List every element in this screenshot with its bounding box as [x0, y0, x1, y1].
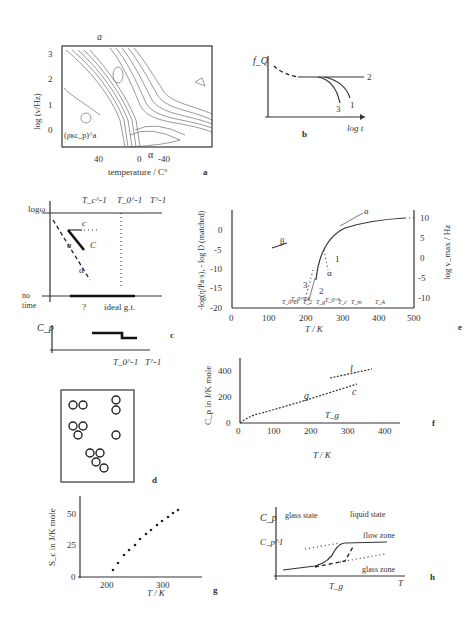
svg-text:β: β — [280, 236, 285, 246]
panel-f-glass — [240, 384, 357, 423]
svg-text:200: 200 — [218, 392, 232, 402]
svg-text:T / K: T / K — [313, 450, 332, 460]
svg-text:100: 100 — [262, 313, 276, 323]
svg-text:a: a — [364, 206, 369, 216]
svg-text:0: 0 — [71, 572, 76, 582]
svg-text:T_g: T_g — [316, 299, 325, 305]
svg-text:-5: -5 — [418, 273, 426, 283]
panel-f: C_p in J/K mole 400 200 0 0 100 200 300 … — [203, 358, 436, 460]
svg-text:100: 100 — [267, 426, 281, 436]
svg-text:glass zone: glass zone — [362, 565, 396, 574]
svg-text:l: l — [350, 363, 353, 374]
svg-text:h: h — [430, 572, 435, 582]
svg-text:d: d — [152, 475, 157, 485]
svg-text:0: 0 — [218, 225, 223, 235]
svg-text:T_c: T_c — [338, 299, 347, 305]
panel-b-letter: b — [302, 129, 307, 139]
svg-text:-10: -10 — [418, 293, 430, 303]
svg-text:T_m: T_m — [351, 299, 362, 305]
svg-text:g: g — [213, 585, 218, 595]
svg-text:3: 3 — [336, 104, 341, 114]
svg-text:a: a — [67, 240, 72, 250]
svg-text:α: α — [79, 265, 84, 275]
panel-h: C_p C_p^1 glass state liquid state flow … — [260, 507, 435, 591]
svg-text:T^-1: T^-1 — [150, 195, 166, 205]
svg-text:T_c^-1: T_c^-1 — [82, 195, 107, 205]
svg-text:T_0^-1: T_0^-1 — [113, 357, 138, 367]
svg-text:T_0^-1: T_0^-1 — [117, 195, 142, 205]
svg-text:ideal g.t.: ideal g.t. — [104, 302, 135, 312]
figure-canvas: a 3 2 1 0 log (ν/Hz) 40 0 -40 α temperat… — [0, 0, 467, 625]
svg-text:α: α — [327, 268, 332, 278]
panel-b-xlabel: log t — [347, 123, 364, 133]
svg-text:-5: -5 — [214, 245, 222, 255]
svg-text:c: c — [352, 386, 357, 397]
svg-text:400: 400 — [378, 426, 392, 436]
svg-text:C_p: C_p — [260, 512, 277, 523]
svg-text:500: 500 — [407, 313, 421, 323]
svg-text:2: 2 — [367, 72, 372, 82]
panel-a-yticks: 3 2 1 0 — [48, 49, 53, 135]
panel-a: a 3 2 1 0 log (ν/Hz) 40 0 -40 α temperat… — [32, 31, 212, 177]
svg-text:C: C — [90, 240, 97, 250]
svg-text:5: 5 — [420, 233, 425, 243]
svg-text:logω: logω — [28, 204, 46, 214]
svg-text:glass state: glass state — [285, 511, 318, 520]
svg-text:no: no — [22, 291, 30, 300]
svg-text:T_g: T_g — [329, 581, 344, 591]
svg-text:log ν_max / Hz: log ν_max / Hz — [442, 225, 452, 280]
svg-text:0: 0 — [48, 125, 53, 135]
svg-text:300: 300 — [341, 426, 355, 436]
svg-text:0: 0 — [226, 418, 231, 428]
svg-text:10: 10 — [420, 213, 430, 223]
svg-text:T_A: T_A — [375, 299, 385, 305]
panel-a-xlabel: temperature / C° — [108, 167, 168, 177]
svg-text:1: 1 — [350, 100, 355, 110]
svg-text:C_p^1: C_p^1 — [260, 537, 283, 547]
svg-text:400: 400 — [372, 313, 386, 323]
svg-text:25: 25 — [67, 540, 77, 550]
svg-text:200: 200 — [304, 426, 318, 436]
panel-b: f_Q 2 3 1 log t b — [253, 55, 372, 139]
panel-a-ylabel: log (ν/Hz) — [32, 93, 42, 130]
svg-text:-10: -10 — [210, 264, 222, 274]
svg-text:-40: -40 — [158, 154, 170, 164]
svg-text:f: f — [432, 418, 436, 428]
svg-text:2: 2 — [48, 74, 53, 84]
panel-a-top-label: a — [97, 31, 102, 42]
svg-text:0: 0 — [236, 426, 241, 436]
svg-text:T_g: T_g — [325, 410, 340, 420]
panel-a-xticks: 40 0 -40 — [94, 154, 170, 164]
svg-text:0: 0 — [420, 253, 425, 263]
svg-text:g: g — [304, 390, 309, 401]
svg-text:40: 40 — [94, 154, 104, 164]
svg-text:?: ? — [82, 302, 86, 312]
svg-text:1: 1 — [48, 100, 53, 110]
svg-text:1: 1 — [335, 254, 340, 264]
svg-text:T: T — [398, 578, 404, 588]
svg-text:400: 400 — [218, 366, 232, 376]
arrow-head-icon — [360, 114, 365, 120]
panel-e: -log(η/Pa·s), - log D (matched) 0 -5 -10… — [197, 206, 462, 334]
svg-text:300: 300 — [336, 313, 350, 323]
svg-text:-log(η/Pa·s), - log D (matched: -log(η/Pa·s), - log D (matched) — [197, 210, 206, 310]
svg-text:T / K: T / K — [147, 588, 166, 598]
svg-text:C_p: C_p — [37, 322, 54, 333]
svg-text:T^-1: T^-1 — [145, 357, 161, 367]
svg-text:T / K: T / K — [305, 324, 324, 334]
svg-text:200: 200 — [299, 313, 313, 323]
panel-b-ylabel: f_Q — [253, 55, 269, 66]
panel-a-letter: a — [203, 167, 208, 177]
svg-text:liquid state: liquid state — [350, 510, 386, 519]
svg-text:e: e — [458, 322, 462, 332]
panel-b-dashed — [274, 66, 298, 77]
svg-text:time: time — [22, 301, 37, 310]
svg-text:0: 0 — [229, 313, 234, 323]
svg-text:c: c — [170, 330, 174, 340]
svg-text:S_c in J/K mole: S_c in J/K mole — [47, 508, 57, 566]
svg-text:C_p in J/K mole: C_p in J/K mole — [203, 366, 213, 425]
svg-text:3: 3 — [48, 49, 53, 59]
panel-g: S_c in J/K mole 50 25 0 200 300 T / K g — [47, 496, 218, 598]
svg-text:-15: -15 — [210, 283, 222, 293]
svg-text:2: 2 — [319, 286, 324, 296]
